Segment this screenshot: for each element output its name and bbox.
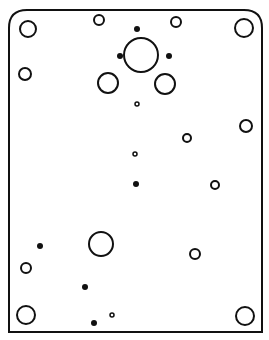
filled-hole-bottom-dot <box>91 320 97 326</box>
open-hole-top-small-left <box>94 15 104 25</box>
open-hole-corner-top-left <box>20 21 36 37</box>
holes-group <box>17 15 254 326</box>
open-hole-mid-center-tiny <box>133 152 137 156</box>
open-hole-top-small-right <box>171 17 181 27</box>
open-hole-bottom-tiny <box>110 313 114 317</box>
diagram-canvas <box>0 0 269 340</box>
open-hole-corner-bottom-left <box>17 306 35 324</box>
open-hole-right-upper <box>240 120 252 132</box>
open-hole-center-medium-right <box>155 74 175 94</box>
filled-hole-lower-left-dot <box>37 243 43 249</box>
open-hole-mid-right-lower <box>211 181 219 189</box>
open-hole-center-tiny <box>135 102 139 106</box>
filled-hole-center-dot-right <box>166 53 172 59</box>
open-hole-corner-top-right <box>235 19 253 37</box>
open-hole-corner-bottom-right <box>236 307 254 325</box>
plate-diagram <box>0 0 269 340</box>
filled-hole-mid-center-dot <box>133 181 139 187</box>
filled-hole-center-dot-left <box>117 53 123 59</box>
filled-hole-center-dot-top <box>134 26 140 32</box>
open-hole-center-medium-left <box>98 73 118 93</box>
open-hole-lower-large <box>89 232 113 256</box>
filled-hole-lower-center-dot <box>82 284 88 290</box>
open-hole-left-upper <box>19 68 31 80</box>
open-hole-center-large <box>124 38 158 72</box>
open-hole-lower-left-small <box>21 263 31 273</box>
open-hole-mid-right-small <box>183 134 191 142</box>
open-hole-lower-right-small <box>190 249 200 259</box>
